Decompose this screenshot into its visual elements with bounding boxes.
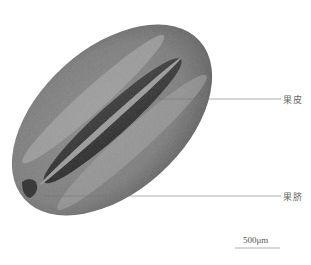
label-pericarp: 果皮	[283, 93, 303, 106]
seed-image	[0, 0, 311, 265]
label-hilum: 果脐	[283, 190, 303, 203]
figure: 果皮 果脐 500μm	[0, 0, 311, 265]
scale-bar-label: 500μm	[243, 235, 268, 245]
